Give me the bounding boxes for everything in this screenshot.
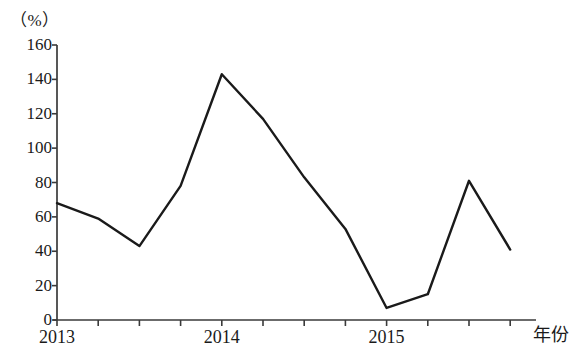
data-series-line [57,74,510,308]
x-axis-tick-label: 2014 [204,327,240,347]
plot-area [0,0,575,353]
line-chart: （%） 020406080100120140160 201320142015 年… [0,0,575,353]
x-axis-tick-label: 2013 [39,327,75,347]
x-axis-tick-label: 2015 [369,327,405,347]
x-axis-title: 年份 [533,325,569,345]
x-axis-ticks [57,320,510,326]
axes [53,45,536,320]
